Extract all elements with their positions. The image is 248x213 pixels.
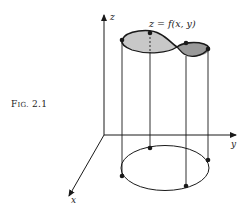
x-axis-label: x <box>71 195 76 205</box>
base-curve <box>121 146 209 191</box>
caption-number: 2.1 <box>29 99 47 109</box>
vertical-lines <box>122 40 208 186</box>
y-axis-label: y <box>230 139 237 149</box>
surface-curve <box>122 31 209 57</box>
x-axis <box>69 135 104 196</box>
figure-caption: FIG. 2.1 <box>11 99 47 109</box>
z-axis-label: z <box>109 12 115 22</box>
figure-2-1: z y x z = f(x, y) FIG. 2.1 <box>0 0 248 213</box>
surface-equation-label: z = f(x, y) <box>148 18 196 29</box>
caption-prefix-smallcaps: IG. <box>18 101 29 109</box>
